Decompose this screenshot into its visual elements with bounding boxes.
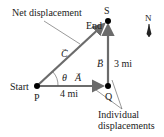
point-q-dot — [105, 83, 111, 89]
vector-arrow-glyph: → — [97, 56, 104, 63]
vector-diagram — [0, 0, 164, 137]
theta-label: θ — [62, 73, 67, 83]
north-label: N — [145, 13, 152, 23]
point-p-dot — [34, 83, 40, 89]
vector-arrow-glyph: → — [75, 70, 82, 77]
theta-angle-arc — [53, 72, 58, 86]
point-q-label: Q — [105, 92, 112, 102]
net-displacement-label: Net displacement — [12, 8, 82, 18]
vector-arrow-glyph: → — [61, 46, 68, 53]
individual-leader-line-b — [112, 80, 122, 109]
vector-c-arrow — [38, 24, 104, 85]
north-arrow-icon — [147, 24, 152, 37]
individual-displacements-line1: Individual — [98, 110, 139, 120]
start-label: Start — [10, 82, 29, 92]
point-p-label: P — [34, 93, 40, 103]
net-displacement-leader-line — [44, 21, 80, 44]
vector-b-label: → B — [97, 59, 103, 69]
point-s-label: S — [104, 6, 110, 16]
point-s-dot — [105, 18, 111, 24]
end-label: End — [86, 21, 102, 31]
vector-b-magnitude: 3 mi — [114, 59, 132, 69]
individual-displacements-line2: displacements — [98, 121, 155, 131]
vector-c-label: → C — [61, 49, 68, 59]
vector-a-magnitude: 4 mi — [60, 89, 78, 99]
vector-a-label: → A — [75, 73, 81, 83]
